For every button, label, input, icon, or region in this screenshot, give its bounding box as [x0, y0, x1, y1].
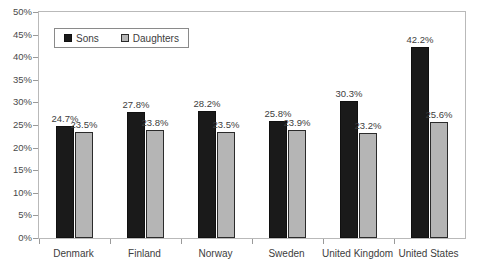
bar-united-kingdom-daughters — [359, 133, 378, 238]
data-label: 23.5% — [66, 119, 102, 130]
bar-sweden-sons — [269, 121, 288, 238]
x-axis-tick-label: Denmark — [38, 247, 109, 260]
data-label: 28.2% — [189, 98, 225, 109]
legend-entry-daughters: Daughters — [121, 33, 179, 44]
y-axis-tick-label: 45% — [13, 30, 32, 40]
y-axis-tick-mark — [33, 215, 38, 216]
bar-sweden-daughters — [288, 130, 307, 238]
x-axis-tick-mark — [110, 239, 111, 244]
x-axis-tick-mark — [39, 239, 40, 244]
y-axis-tick-label: 0% — [18, 233, 32, 243]
data-label: 23.2% — [350, 120, 386, 131]
y-axis-tick-label: 5% — [18, 210, 32, 220]
y-axis-tick-mark — [33, 57, 38, 58]
bar-finland-daughters — [146, 130, 165, 238]
y-axis-tick-mark — [33, 35, 38, 36]
x-axis-tick-mark — [323, 239, 324, 244]
x-axis-tick-label: United Kingdom — [322, 247, 393, 260]
data-label: 23.9% — [279, 117, 315, 128]
y-axis-tick-label: 10% — [13, 188, 32, 198]
legend-label: Daughters — [133, 33, 179, 44]
data-label: 27.8% — [118, 99, 154, 110]
bar-united-states-sons — [411, 47, 430, 238]
y-axis-tick-mark — [33, 80, 38, 81]
y-axis-tick-label: 20% — [13, 143, 32, 153]
y-axis-tick-mark — [33, 170, 38, 171]
chart-legend: SonsDaughters — [54, 28, 189, 48]
x-axis-tick-mark — [181, 239, 182, 244]
legend-swatch-icon — [121, 34, 129, 42]
x-axis: DenmarkFinlandNorwaySwedenUnited Kingdom… — [38, 247, 466, 265]
y-axis-tick-label: 50% — [13, 7, 32, 17]
x-axis-tick-mark — [252, 239, 253, 244]
y-axis-tick-label: 30% — [13, 97, 32, 107]
data-label: 23.5% — [208, 119, 244, 130]
data-label: 42.2% — [402, 34, 438, 45]
y-axis-tick-mark — [33, 102, 38, 103]
y-axis: 0%5%10%15%20%25%30%35%40%45%50% — [0, 11, 32, 239]
bar-denmark-sons — [56, 126, 75, 238]
y-axis-tick-mark — [33, 238, 38, 239]
y-axis-tick-label: 40% — [13, 52, 32, 62]
bar-denmark-daughters — [75, 132, 94, 238]
y-axis-tick-mark — [33, 12, 38, 13]
bar-norway-daughters — [217, 132, 236, 238]
y-axis-tick-mark — [33, 148, 38, 149]
bar-chart: 0%5%10%15%20%25%30%35%40%45%50% 24.7%23.… — [0, 0, 477, 276]
y-axis-tick-mark — [33, 125, 38, 126]
data-label: 30.3% — [331, 88, 367, 99]
x-axis-tick-label: United States — [393, 247, 464, 260]
x-axis-tick-label: Norway — [180, 247, 251, 260]
x-axis-tick-label: Finland — [109, 247, 180, 260]
legend-swatch-icon — [64, 34, 72, 42]
bar-finland-sons — [127, 112, 146, 238]
legend-entry-sons: Sons — [64, 33, 99, 44]
bar-united-states-daughters — [430, 122, 449, 238]
legend-label: Sons — [76, 33, 99, 44]
x-axis-tick-label: Sweden — [251, 247, 322, 260]
data-label: 23.8% — [137, 117, 173, 128]
y-axis-tick-label: 25% — [13, 120, 32, 130]
y-axis-tick-mark — [33, 193, 38, 194]
x-axis-tick-mark — [394, 239, 395, 244]
y-axis-tick-label: 35% — [13, 75, 32, 85]
data-label: 25.6% — [421, 109, 457, 120]
y-axis-tick-label: 15% — [13, 165, 32, 175]
